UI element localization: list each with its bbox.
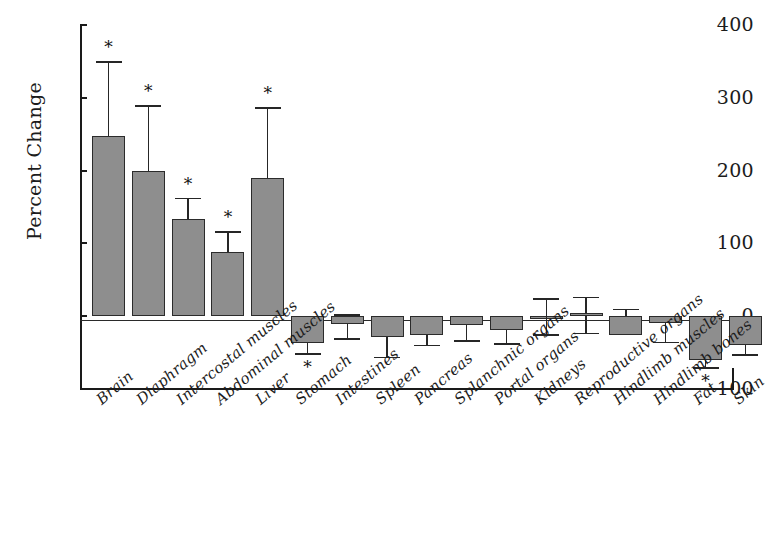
error-cap-2 xyxy=(175,198,201,200)
error-stem-10 xyxy=(506,330,508,343)
error-stem-3 xyxy=(227,231,229,252)
bar-intestines xyxy=(331,316,364,324)
error-cap-12 xyxy=(573,297,599,299)
significance-star-intercostal-muscles: * xyxy=(179,176,197,193)
bar-brain xyxy=(92,136,125,316)
significance-star-abdominal-muscles: * xyxy=(219,209,237,226)
error-cap-0 xyxy=(96,61,122,63)
significance-star-brain: * xyxy=(100,39,118,56)
error-stem-2 xyxy=(187,198,189,220)
error-stem-4 xyxy=(267,107,269,178)
bar-pancreas xyxy=(410,316,443,335)
error-cap-8 xyxy=(414,345,440,347)
error-cap-4 xyxy=(255,107,281,109)
significance-star-liver: * xyxy=(259,85,277,102)
bar-splanchnic-organs xyxy=(450,316,483,325)
bar-diaphragm xyxy=(132,171,165,317)
bar-hindlimb-muscles xyxy=(609,316,642,335)
bar-liver xyxy=(251,178,284,316)
error-stem-5 xyxy=(307,343,309,353)
error-cap-6 xyxy=(334,314,360,316)
error-cap-6 xyxy=(334,338,360,340)
error-cap-1 xyxy=(135,105,161,107)
bar-portal-organs xyxy=(490,316,523,330)
error-cap-16 xyxy=(732,354,758,356)
error-cap-5 xyxy=(295,353,321,355)
significance-star-stomach: * xyxy=(299,359,317,376)
error-stem-12 xyxy=(585,316,587,333)
error-stem-1 xyxy=(148,105,150,171)
error-stem-8 xyxy=(426,335,428,344)
error-cap-11 xyxy=(533,298,559,300)
bar-abdominal-muscles xyxy=(211,252,244,316)
error-cap-9 xyxy=(454,340,480,342)
bar-spleen xyxy=(371,316,404,337)
error-stem-9 xyxy=(466,325,468,340)
significance-star-diaphragm: * xyxy=(139,83,157,100)
error-stem-6 xyxy=(347,324,349,338)
error-stem-0 xyxy=(108,61,110,136)
bar-intercostal-muscles xyxy=(172,219,205,316)
error-cap-3 xyxy=(215,231,241,233)
error-stem-16 xyxy=(745,345,747,354)
error-cap-13 xyxy=(613,309,639,311)
error-stem-12 xyxy=(585,297,587,314)
